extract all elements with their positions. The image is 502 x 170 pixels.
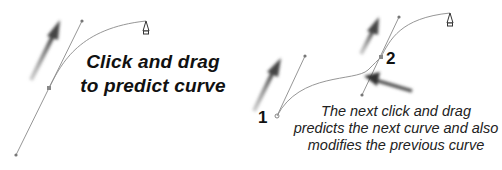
caption-line: Click and drag [68, 50, 238, 74]
handle-point [303, 54, 306, 57]
caption-line: The next click and drag [290, 103, 502, 120]
caption-line: to predict curve [68, 74, 238, 98]
handle-point [14, 153, 17, 156]
drag-arrow-icon [254, 58, 281, 111]
left-caption: Click and drag to predict curve [68, 50, 238, 98]
drag-arrow-icon [361, 17, 379, 54]
drag-arrow-icon [364, 72, 412, 91]
pen-cursor-icon [143, 21, 149, 34]
right-caption: The next click and drag predicts the nex… [290, 103, 502, 154]
pen-cursor-icon [447, 13, 453, 26]
drag-arrow-icon [31, 20, 60, 80]
caption-line: predicts the next curve and also [290, 120, 502, 137]
point-1-label: 1 [258, 108, 267, 128]
caption-line: modifies the previous curve [290, 137, 502, 154]
handle-point [397, 15, 400, 18]
handle-point [360, 93, 363, 96]
point-2-label: 2 [386, 49, 395, 69]
handle-point [80, 19, 83, 22]
